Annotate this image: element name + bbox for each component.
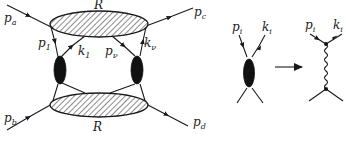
middle-black-blob — [244, 59, 255, 87]
label-ki-middle: ki — [262, 20, 272, 36]
label-p1: p1 — [38, 36, 51, 52]
label-R-bottom: R — [92, 120, 102, 134]
label-pa: pa — [4, 11, 17, 27]
label-k1: k1 — [78, 44, 90, 60]
label-ki-right: ki — [333, 18, 343, 34]
label-R-top: R — [93, 0, 103, 12]
upper-hatched-blob — [50, 11, 148, 37]
label-pb: pb — [4, 111, 17, 127]
exchange-diagram: pi ki — [305, 18, 343, 101]
label-pc: pc — [194, 5, 207, 21]
leg-pc — [146, 8, 193, 26]
right-black-blob — [131, 56, 143, 84]
label-pi-middle: pi — [232, 20, 243, 36]
bottom-vertex-dot — [324, 87, 328, 91]
label-pd: pd — [193, 115, 206, 131]
wavy-propagator — [325, 44, 328, 89]
line-lower-left-inner — [62, 83, 85, 93]
feynman-diagram: R R pa pb pc pd p1 k1 pν kν pi ki pi — [0, 0, 346, 143]
label-pi-right: pi — [305, 18, 316, 34]
label-pnu: pν — [105, 44, 118, 60]
line-lower-right-inner — [110, 84, 135, 93]
top-vertex-dot — [324, 42, 328, 46]
leg-pd — [146, 104, 188, 126]
label-knu: kν — [144, 36, 156, 52]
line-p1 — [51, 27, 58, 57]
lower-hatched-blob — [50, 93, 148, 117]
left-black-blob — [54, 56, 66, 84]
ladder-diagram: R R pa pb pc pd p1 k1 pν kν — [4, 0, 207, 134]
blob-vertex: pi ki — [232, 20, 272, 103]
